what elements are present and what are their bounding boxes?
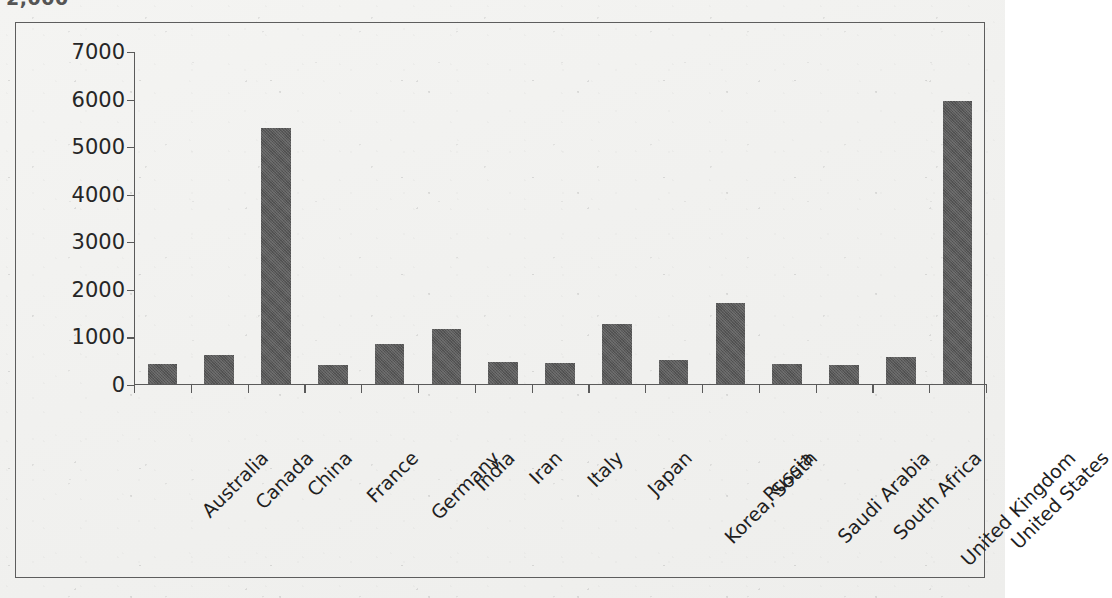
- x-axis-tick: [475, 384, 476, 393]
- bar: [545, 363, 575, 384]
- y-axis-tick-label: 0: [112, 375, 125, 396]
- x-axis-tick: [134, 384, 135, 393]
- bar: [772, 364, 802, 384]
- y-axis-tick: [127, 100, 135, 101]
- bar: [829, 365, 859, 385]
- y-axis-tick: [127, 195, 135, 196]
- x-axis-tick: [872, 384, 873, 393]
- y-axis-tick: [127, 242, 135, 243]
- x-axis-category-label: Italy: [584, 448, 627, 491]
- x-axis-tick: [304, 384, 305, 393]
- bar: [432, 329, 462, 384]
- bar: [318, 365, 348, 384]
- x-axis-tick: [929, 384, 930, 393]
- x-axis-tick: [702, 384, 703, 393]
- bar: [204, 355, 234, 384]
- plot-area: 01000200030004000500060007000 AustraliaC…: [134, 52, 986, 385]
- y-axis-tick: [127, 147, 135, 148]
- y-axis-tick: [127, 52, 135, 53]
- y-axis-tick-label: 3000: [72, 232, 125, 253]
- x-axis-tick: [191, 384, 192, 393]
- x-axis-tick: [759, 384, 760, 393]
- bar: [261, 128, 291, 384]
- bar: [602, 324, 632, 384]
- bar: [659, 360, 689, 384]
- clipped-title-fragment: 2,000: [6, 0, 69, 9]
- x-axis-tick: [816, 384, 817, 393]
- y-axis-tick-label: 1000: [72, 327, 125, 348]
- y-axis-tick-label: 6000: [72, 89, 125, 110]
- bar: [148, 364, 178, 384]
- y-axis-tick-label: 4000: [72, 184, 125, 205]
- y-axis-tick-label: 5000: [72, 137, 125, 158]
- y-axis-tick: [127, 290, 135, 291]
- x-axis-tick: [986, 384, 987, 393]
- bar: [488, 362, 518, 384]
- y-axis-tick-label: 7000: [72, 42, 125, 63]
- x-axis-category-label: Australia: [199, 448, 272, 521]
- x-axis-tick: [532, 384, 533, 393]
- bar: [375, 344, 405, 384]
- x-axis-category-label: Russia: [760, 448, 817, 505]
- x-axis-category-label: France: [363, 448, 421, 506]
- x-axis-category-label: Japan: [644, 448, 695, 499]
- x-axis-category-label: Iran: [526, 448, 566, 488]
- x-axis-tick: [418, 384, 419, 393]
- y-axis-line: [134, 52, 135, 385]
- x-axis-tick: [645, 384, 646, 393]
- bar: [943, 101, 973, 384]
- bar: [886, 357, 916, 384]
- y-axis-tick-label: 2000: [72, 279, 125, 300]
- x-axis-tick: [588, 384, 589, 393]
- x-axis-tick: [361, 384, 362, 393]
- chart-frame: 01000200030004000500060007000 AustraliaC…: [15, 22, 985, 578]
- x-axis-tick: [248, 384, 249, 393]
- y-axis-tick: [127, 337, 135, 338]
- bar: [716, 303, 746, 384]
